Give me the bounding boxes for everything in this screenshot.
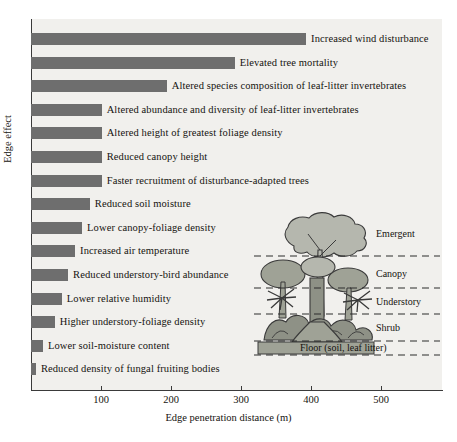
- x-tick: [171, 386, 172, 391]
- x-tick: [101, 386, 102, 391]
- strata-label-floor: Floor (soil, leaf litter): [300, 342, 387, 353]
- bar-row: Reduced density of fungal fruiting bodie…: [0, 362, 220, 376]
- bar-label: Higher understory-foliage density: [60, 316, 206, 328]
- bar: [31, 293, 62, 305]
- strata-label-shrub: Shrub: [376, 322, 400, 333]
- bar: [31, 222, 82, 234]
- bar: [31, 363, 36, 375]
- bar-label: Lower soil-moisture content: [48, 340, 170, 352]
- bar-label: Altered height of greatest foliage densi…: [107, 127, 283, 139]
- bar-label: Increased air temperature: [80, 245, 189, 257]
- bar-label: Increased wind disturbance: [311, 33, 428, 45]
- x-tick-label: 100: [93, 394, 109, 405]
- bar-label: Reduced soil moisture: [95, 198, 191, 210]
- bar-label: Faster recruitment of disturbance-adapte…: [107, 175, 309, 187]
- bar-row: Increased air temperature: [0, 244, 189, 258]
- x-tick-label: 400: [303, 394, 319, 405]
- x-tick-label: 300: [233, 394, 249, 405]
- x-axis-title: Edge penetration distance (m): [0, 412, 457, 423]
- bar: [31, 340, 43, 352]
- x-tick: [311, 386, 312, 391]
- bar-label: Reduced density of fungal fruiting bodie…: [41, 363, 220, 375]
- bar: [31, 198, 90, 210]
- figure-container: Increased wind disturbanceElevated tree …: [0, 0, 457, 442]
- bar-row: Altered species composition of leaf-litt…: [0, 79, 406, 93]
- bar: [31, 57, 235, 69]
- bar: [31, 127, 102, 139]
- strata-label-understory: Understory: [376, 296, 421, 307]
- bar-row: Lower canopy-foliage density: [0, 221, 216, 235]
- bar-row: Lower relative humidity: [0, 292, 171, 306]
- bar-label: Altered species composition of leaf-litt…: [172, 80, 406, 92]
- bar-row: Elevated tree mortality: [0, 56, 338, 70]
- bar: [31, 151, 102, 163]
- x-tick-label: 200: [163, 394, 179, 405]
- bar-row: Reduced soil moisture: [0, 197, 191, 211]
- bar-label: Reduced understory-bird abundance: [73, 269, 229, 281]
- forest-strata-inset: Emergent Canopy Understory Shrub Floor (…: [252, 212, 442, 368]
- x-tick-label: 500: [373, 394, 389, 405]
- bar-row: Increased wind disturbance: [0, 32, 429, 46]
- bar: [31, 80, 167, 92]
- bar-row: Reduced understory-bird abundance: [0, 268, 229, 282]
- bar: [31, 104, 102, 116]
- bar: [31, 316, 55, 328]
- x-tick: [381, 386, 382, 391]
- bar-row: Altered abundance and diversity of leaf-…: [0, 103, 359, 117]
- bar-label: Lower canopy-foliage density: [87, 222, 216, 234]
- bar: [31, 175, 102, 187]
- bar-label: Lower relative humidity: [67, 293, 171, 305]
- bar-label: Reduced canopy height: [107, 151, 208, 163]
- bar-label: Elevated tree mortality: [240, 57, 339, 69]
- bar-row: Altered height of greatest foliage densi…: [0, 126, 283, 140]
- y-axis-title: Edge effect: [2, 115, 13, 163]
- strata-label-canopy: Canopy: [376, 268, 407, 279]
- bar-label: Altered abundance and diversity of leaf-…: [107, 104, 359, 116]
- bar-row: Higher understory-foliage density: [0, 315, 205, 329]
- bar-row: Faster recruitment of disturbance-adapte…: [0, 174, 309, 188]
- bar: [31, 245, 75, 257]
- bar: [31, 269, 68, 281]
- bar: [31, 33, 306, 45]
- bar-row: Reduced canopy height: [0, 150, 207, 164]
- x-tick: [241, 386, 242, 391]
- strata-label-emergent: Emergent: [376, 228, 415, 239]
- bar-row: Lower soil-moisture content: [0, 339, 170, 353]
